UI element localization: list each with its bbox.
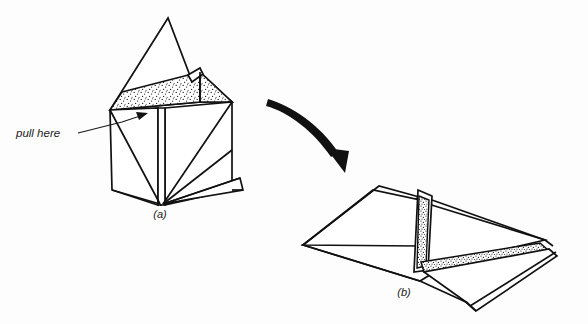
pull-here-label: pull here [15, 127, 60, 139]
diagram-canvas: pull here (a) (b) [0, 0, 588, 324]
caption-step-b: (b) [397, 286, 411, 298]
panel-a-center-spine [158, 108, 165, 205]
caption-step-a: (a) [153, 208, 167, 220]
origami-figure: pull here (a) (b) [0, 0, 588, 324]
